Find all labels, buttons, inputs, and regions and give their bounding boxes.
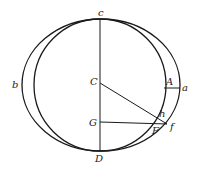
- label-D: D: [94, 153, 103, 164]
- label-C: C: [90, 76, 98, 87]
- label-c: c: [98, 7, 104, 18]
- ordinate-Gf: [100, 122, 167, 124]
- label-G: G: [89, 117, 97, 128]
- diagram-canvas: c C G D b A a h F f: [0, 0, 198, 171]
- label-F: F: [151, 125, 160, 136]
- label-h: h: [159, 108, 165, 119]
- label-A: A: [165, 76, 173, 87]
- radius-Cf: [100, 83, 167, 124]
- label-b: b: [12, 79, 18, 90]
- label-a: a: [182, 82, 188, 93]
- label-f: f: [169, 121, 176, 132]
